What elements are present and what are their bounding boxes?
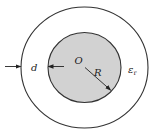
inner-sphere [48, 33, 121, 103]
radius-label: R [93, 67, 102, 78]
center-label: O [75, 55, 83, 66]
coated-sphere-diagram: d O R εr [0, 0, 156, 135]
thickness-label: d [31, 62, 37, 73]
